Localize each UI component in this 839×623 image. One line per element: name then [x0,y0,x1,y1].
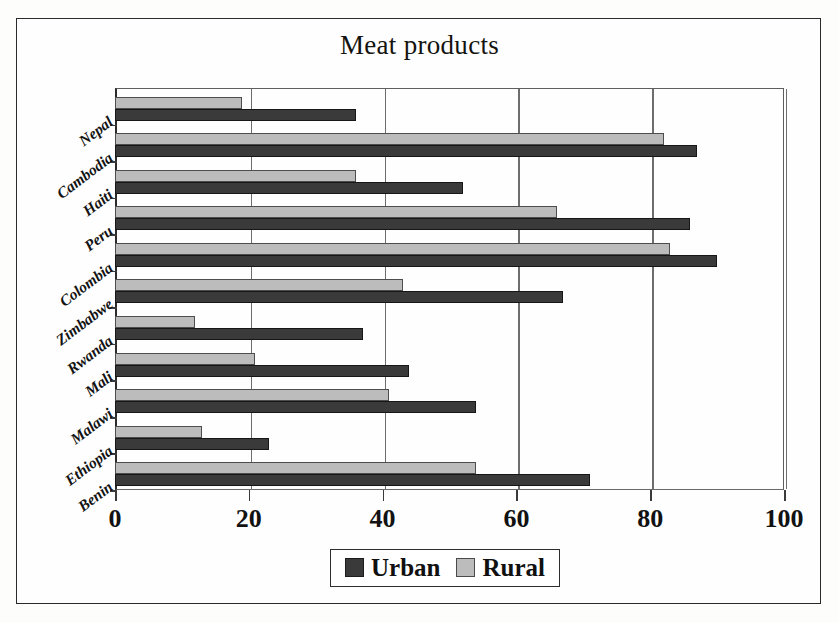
bar-urban-malawi [115,401,476,413]
legend-label-rural: Rural [482,555,545,580]
gridline-100 [786,89,787,489]
bar-urban-cambodia [115,145,697,157]
bar-rural-zimbabwe [115,279,403,291]
bar-rural-malawi [115,389,389,401]
x-tick-80 [650,490,652,501]
x-tick-label-40: 40 [370,504,396,534]
bar-urban-zimbabwe [115,291,563,303]
bar-rural-rwanda [115,316,195,328]
x-tick-label-80: 80 [637,504,663,534]
bar-rural-benin [115,462,476,474]
bar-urban-peru [115,218,690,230]
legend-swatch-rural-icon [456,558,475,577]
x-tick-label-100: 100 [765,504,804,534]
bar-rural-peru [115,206,557,218]
x-tick-label-0: 0 [109,504,122,534]
legend-entry-rural[interactable]: Rural [456,555,545,580]
legend-label-urban: Urban [371,555,440,580]
bar-rural-mali [115,353,255,365]
legend-swatch-urban-icon [345,558,364,577]
bar-urban-colombia [115,255,717,267]
bar-rural-haiti [115,170,356,182]
x-tick-100 [784,490,786,501]
bar-rural-colombia [115,243,670,255]
chart-title: Meat products [0,30,839,61]
x-tick-60 [516,490,518,501]
bar-rural-nepal [115,97,242,109]
bar-urban-benin [115,474,590,486]
bar-urban-mali [115,365,409,377]
x-tick-40 [383,490,385,501]
x-tick-label-60: 60 [503,504,529,534]
bar-urban-nepal [115,109,356,121]
x-tick-0 [115,490,117,501]
chart-figure: Meat products NepalCambodiaHaitiPeruColo… [0,0,839,623]
bar-rural-cambodia [115,133,664,145]
x-tick-20 [249,490,251,501]
bar-urban-rwanda [115,328,363,340]
bar-rural-ethiopia [115,426,202,438]
x-tick-label-20: 20 [236,504,262,534]
bar-urban-haiti [115,182,463,194]
bar-urban-ethiopia [115,438,269,450]
chart-legend: Urban Rural [330,549,560,587]
legend-entry-urban[interactable]: Urban [345,555,440,580]
